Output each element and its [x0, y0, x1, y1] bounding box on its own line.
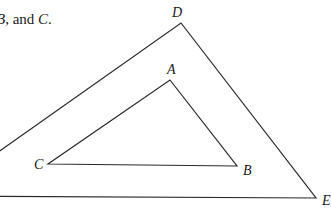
outer-triangle-def	[0, 23, 316, 198]
label-c: C	[34, 158, 43, 172]
inner-triangle-abc	[48, 80, 237, 166]
label-b: B	[243, 164, 252, 178]
label-d: D	[172, 6, 182, 20]
label-e: E	[322, 194, 331, 208]
label-a: A	[167, 63, 176, 77]
